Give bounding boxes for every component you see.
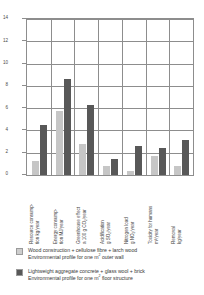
environmental-profile-bar-chart: 02468101214 Resource consump-tion kg/yea… [0,0,204,295]
bar-wood-2 [79,144,86,175]
category-label-6-line2: kg/year [177,180,182,244]
category-label-2-line2: a 100 g CO₂/year [82,180,87,244]
bar-concrete-5 [159,148,166,175]
bar-wood-5 [151,156,158,176]
bar-group-2 [74,19,98,175]
bar-group-5 [146,19,170,175]
category-label-0-line1: Resource consump- [29,180,34,244]
y-tick-label-8: 8 [0,82,8,87]
bar-group-6 [169,19,193,175]
bar-wood-1 [56,111,63,175]
legend-swatch-dark [16,269,23,276]
y-tick-label-6: 6 [0,105,8,110]
bar-group-1 [51,19,75,175]
legend-wood-line2-post: outer wall [101,254,124,260]
category-label-1-line1: Energy consump- [53,180,58,244]
y-tick-label-10: 10 [0,60,8,65]
legend-item-wood-line1: Wood construction + cellulose fibre + la… [28,247,202,254]
bar-concrete-1 [64,79,71,175]
category-label-5-line2: m³/year [154,180,159,244]
category-label-5-line1: Toxicity for humans [148,180,153,244]
legend-item-concrete: Lightweight aggregate concrete + glass w… [16,268,202,281]
bar-concrete-6 [182,140,189,175]
bar-group-0 [27,19,51,175]
y-tick-label-0: 0 [0,171,8,176]
bar-wood-0 [32,161,39,175]
category-label-0-line2: tion kg/year [35,180,40,244]
bar-concrete-3 [111,159,118,175]
bar-wood-6 [174,166,181,175]
chart-legend: Wood construction + cellulose fibre + la… [16,247,202,289]
legend-wood-line2-pre: Environmental profile for one m [28,254,99,260]
legend-item-concrete-line1: Lightweight aggregate concrete + glass w… [28,268,202,275]
category-label-3-line1: Acidification [100,180,105,244]
bar-concrete-4 [135,146,142,175]
category-label-4-line2: g NO₂/year [130,180,135,244]
y-tick-label-12: 12 [0,38,8,43]
category-label-6-line1: Removal [171,180,176,244]
legend-swatch-light [16,248,23,255]
plot-area [26,18,194,176]
legend-concrete-line2-post: floor structure [101,275,133,281]
category-label-1-line2: tion MJ/year [59,180,64,244]
y-tick-label-14: 14 [0,15,8,20]
bar-concrete-2 [87,105,94,175]
y-tick-label-4: 4 [0,127,8,132]
legend-item-wood-line2: Environmental profile for one m2 outer w… [28,254,202,261]
legend-concrete-line2-pre: Environmental profile for one m [28,275,99,281]
bar-group-4 [122,19,146,175]
category-label-3-line2: g SO₂/year [106,180,111,244]
bar-wood-4 [127,171,134,175]
y-tick-label-2: 2 [0,149,8,154]
category-label-4-line1: Nitrogen load [124,180,129,244]
legend-item-concrete-line2: Environmental profile for one m2 floor s… [28,275,202,282]
bar-group-3 [98,19,122,175]
legend-item-wood: Wood construction + cellulose fibre + la… [16,247,202,260]
bar-wood-3 [103,166,110,175]
bar-concrete-0 [40,125,47,175]
